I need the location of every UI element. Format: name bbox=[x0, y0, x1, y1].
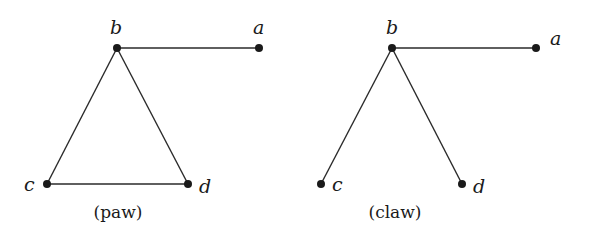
vertex-c bbox=[43, 180, 51, 188]
edge-b-d bbox=[392, 48, 462, 184]
vertex-label-b: b bbox=[386, 16, 398, 38]
vertex-label-a: a bbox=[253, 16, 264, 38]
graph-figure: b a c d (paw) b a c d (claw) bbox=[0, 0, 593, 239]
vertex-label-b: b bbox=[110, 16, 122, 38]
vertex-d bbox=[184, 180, 192, 188]
edge-b-c bbox=[321, 48, 392, 184]
edge-b-c bbox=[47, 48, 117, 184]
caption-claw: (claw) bbox=[369, 202, 422, 222]
vertex-d bbox=[458, 180, 466, 188]
vertex-label-c: c bbox=[24, 173, 35, 195]
vertex-label-c: c bbox=[332, 173, 343, 195]
paw-graph: b a c d (paw) bbox=[24, 16, 264, 222]
vertex-label-a: a bbox=[550, 27, 561, 49]
vertex-label-d: d bbox=[199, 175, 211, 197]
vertex-a bbox=[255, 44, 263, 52]
claw-graph: b a c d (claw) bbox=[317, 16, 561, 222]
vertex-a bbox=[532, 44, 540, 52]
caption-paw: (paw) bbox=[94, 202, 143, 222]
vertex-label-d: d bbox=[473, 175, 485, 197]
vertex-b bbox=[113, 44, 121, 52]
edge-b-d bbox=[117, 48, 188, 184]
vertex-b bbox=[388, 44, 396, 52]
vertex-c bbox=[317, 180, 325, 188]
